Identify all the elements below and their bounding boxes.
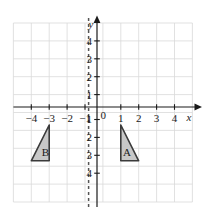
- x-tick-label-neg3: −3: [43, 112, 55, 124]
- y-tick-label-neg2: 2: [87, 131, 93, 143]
- y-axis-label: y: [88, 18, 94, 30]
- x-axis-label: x: [186, 111, 192, 123]
- y-tick-label-neg3: 3: [87, 149, 93, 161]
- y-tick-label-2: 2: [87, 71, 93, 83]
- y-tick-label-neg4: 4: [87, 167, 93, 179]
- y-tick-label-neg1: 1: [87, 113, 93, 125]
- y-tick-label-3: 3: [87, 53, 93, 65]
- x-tick-label-4: 4: [172, 112, 178, 124]
- x-tick-label-1: 1: [118, 112, 124, 124]
- x-tick-label-neg4: −4: [25, 112, 37, 124]
- triangle-B-label: B: [42, 146, 49, 158]
- origin-label: 0: [101, 109, 107, 121]
- coordinate-plane-svg: −4 −3 −2 −1 1 2 3 4 0 4 3 2 1 1 2 3 4 x …: [0, 0, 209, 219]
- y-tick-label-4: 4: [87, 35, 93, 47]
- y-tick-label-1: 1: [87, 89, 93, 101]
- x-tick-label-2: 2: [136, 112, 142, 124]
- x-tick-label-3: 3: [154, 112, 160, 124]
- x-tick-label-neg2: −2: [61, 112, 73, 124]
- coordinate-plane-figure: −4 −3 −2 −1 1 2 3 4 0 4 3 2 1 1 2 3 4 x …: [0, 0, 209, 219]
- triangle-A-label: A: [123, 146, 131, 158]
